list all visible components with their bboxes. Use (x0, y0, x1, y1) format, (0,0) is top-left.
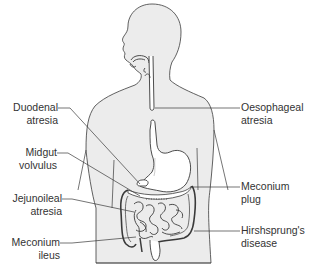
label-midgut-volvulus: Midgut volvulus (4, 146, 57, 172)
oesophagus-upper (149, 56, 154, 110)
label-meconium-plug: Meconium plug (241, 180, 311, 206)
label-meconium-ileus: Meconium ileus (2, 236, 60, 262)
label-oesophageal-atresia: Oesophageal atresia (241, 101, 311, 127)
left-side-line (78, 150, 86, 190)
right-side-line (214, 130, 228, 190)
label-jejunoileal-atresia: Jejunoileal atresia (2, 192, 62, 218)
label-hirshsprungs-disease: Hirshsprung's disease (241, 224, 311, 250)
label-duodenal-atresia: Duodenal atresia (4, 101, 58, 127)
